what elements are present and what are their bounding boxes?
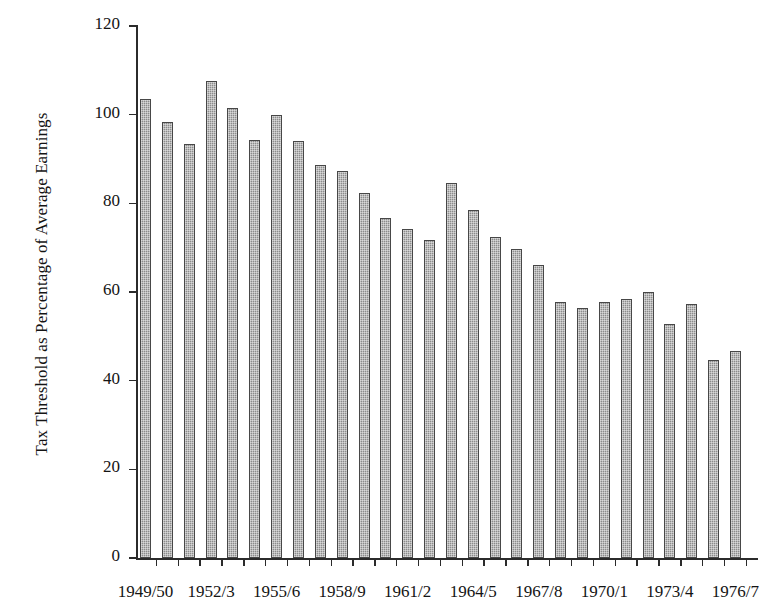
bar-chart-figure: Tax Threshold as Percentage of Average E…: [0, 0, 772, 614]
y-axis-tick-label: 120: [74, 14, 120, 34]
x-axis-tick-label: 1964/5: [450, 582, 497, 602]
x-axis-tick: [352, 559, 353, 566]
bar: [643, 292, 654, 558]
x-axis-tick: [221, 559, 222, 566]
x-axis-tick: [593, 559, 594, 566]
y-axis-tick-label: 0: [74, 546, 120, 566]
bar: [227, 108, 238, 558]
x-axis-tick: [746, 559, 747, 566]
bar: [424, 240, 435, 558]
y-axis-tick-label: 100: [74, 103, 120, 123]
y-axis-tick-label: 40: [74, 369, 120, 389]
bar: [708, 360, 719, 558]
x-axis-tick: [505, 559, 506, 566]
x-axis-tick-label: 1973/4: [646, 582, 693, 602]
x-axis-tick: [199, 559, 200, 566]
bar: [162, 122, 173, 558]
x-axis-tick: [243, 559, 244, 566]
bar: [359, 193, 370, 558]
bar: [249, 140, 260, 559]
bar: [468, 210, 479, 558]
plot-area: 020406080100120 1949/501952/31955/61958/…: [136, 26, 758, 558]
x-axis-tick: [658, 559, 659, 566]
x-axis-tick: [418, 559, 419, 566]
x-axis-tick: [331, 559, 332, 566]
y-axis-tick-label: 80: [74, 191, 120, 211]
y-axis-tick-label: 60: [74, 280, 120, 300]
x-axis-tick: [680, 559, 681, 566]
x-axis-tick: [724, 559, 725, 566]
x-axis-tick: [440, 559, 441, 566]
x-axis-tick: [702, 559, 703, 566]
bar: [380, 218, 391, 558]
x-axis-tick: [309, 559, 310, 566]
bar: [446, 183, 457, 559]
bar: [337, 171, 348, 558]
x-axis-tick-label: 1949/50: [118, 582, 174, 602]
x-axis-tick-label: 1967/8: [515, 582, 562, 602]
x-axis-tick: [527, 559, 528, 566]
x-axis-tick: [549, 559, 550, 566]
bar: [490, 237, 501, 558]
bar: [577, 308, 588, 558]
x-axis-tick-label: 1958/9: [319, 582, 366, 602]
x-axis-tick: [483, 559, 484, 566]
bar: [533, 265, 544, 558]
bar: [599, 302, 610, 558]
x-axis-line: [136, 558, 758, 560]
bar: [686, 304, 697, 558]
x-axis-tick: [571, 559, 572, 566]
bar: [315, 165, 326, 558]
x-axis-tick-label: 1955/6: [253, 582, 300, 602]
x-axis-tick: [156, 559, 157, 566]
x-axis-tick-label: 1970/1: [581, 582, 628, 602]
x-axis-tick-label: 1961/2: [384, 582, 431, 602]
x-axis-tick: [287, 559, 288, 566]
x-axis-tick: [374, 559, 375, 566]
bar: [271, 115, 282, 558]
bar: [511, 249, 522, 558]
y-axis-title: Tax Threshold as Percentage of Average E…: [32, 64, 52, 504]
bar: [206, 81, 217, 558]
x-axis-tick-label: 1952/3: [187, 582, 234, 602]
bar-series: [136, 26, 758, 558]
x-axis-tick: [462, 559, 463, 566]
bar: [664, 324, 675, 558]
bar: [621, 299, 632, 558]
bar: [555, 302, 566, 558]
x-axis-tick: [636, 559, 637, 566]
y-axis-tick-label: 20: [74, 457, 120, 477]
bar: [140, 99, 151, 558]
bar: [402, 229, 413, 558]
x-axis-tick: [178, 559, 179, 566]
x-axis-tick: [265, 559, 266, 566]
x-axis-tick: [615, 559, 616, 566]
bar: [184, 144, 195, 558]
bar: [293, 141, 304, 558]
x-axis-tick-label: 1976/7: [712, 582, 759, 602]
x-axis-tick: [396, 559, 397, 566]
bar: [730, 351, 741, 558]
